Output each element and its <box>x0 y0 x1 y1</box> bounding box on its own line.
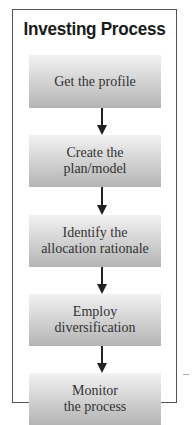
diagram-frame: Investing Process Get the profile Create… <box>12 9 177 403</box>
diagram-title: Investing Process <box>21 18 168 40</box>
arrow-down-icon <box>96 108 108 135</box>
scan-mark <box>183 374 189 375</box>
step-label: Monitor the process <box>64 383 127 415</box>
step-label: Identify the allocation rationale <box>41 225 149 257</box>
arrow-down-icon <box>96 346 108 373</box>
arrow-down-icon <box>96 187 108 215</box>
step-create-plan: Create the plan/model <box>29 135 161 187</box>
arrow-down-icon <box>96 267 108 294</box>
step-employ-diversification: Employ diversification <box>29 294 161 346</box>
step-monitor-process: Monitor the process <box>29 373 161 425</box>
step-identify-allocation: Identify the allocation rationale <box>29 215 161 267</box>
step-get-profile: Get the profile <box>29 55 161 108</box>
step-label: Get the profile <box>54 74 136 90</box>
step-label: Create the plan/model <box>64 145 127 177</box>
step-label: Employ diversification <box>55 304 136 336</box>
